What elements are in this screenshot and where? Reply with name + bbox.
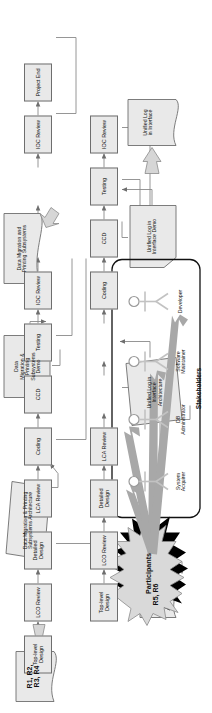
process-label: Top-level Design: [32, 637, 44, 671]
process-label: LCO Review: [101, 535, 107, 565]
doc-shape-uli-demo: [122, 189, 176, 267]
process-label: Coding: [101, 281, 107, 298]
process-label: IOC Review: [35, 120, 41, 149]
process-mid-4[interactable]: LCA Review: [90, 427, 118, 465]
process-mid-7[interactable]: Testing: [90, 167, 118, 205]
process-mid-8[interactable]: IOC Review: [90, 115, 118, 153]
process-label: Detailed Design: [32, 533, 44, 567]
process-top-1[interactable]: Top-level Design: [24, 635, 52, 673]
process-top-8[interactable]: IOC Review: [24, 271, 52, 309]
diagram-rotation-wrapper: Top-level Design LCO Review Detailed Des…: [0, 0, 212, 713]
process-top-5[interactable]: Coding: [24, 427, 52, 465]
process-label: Detailed Design: [98, 481, 110, 515]
doc-shape-uli: [128, 99, 178, 145]
process-top-4[interactable]: LCA Review: [24, 479, 52, 517]
process-top-6[interactable]: CCD: [24, 375, 52, 413]
process-project-end[interactable]: Project End: [24, 63, 52, 101]
process-mid-1[interactable]: Top-level Design: [90, 583, 118, 621]
process-label: Top-level Design: [98, 585, 110, 619]
process-mid-5[interactable]: Coding: [90, 271, 118, 309]
process-label: LCA Review: [101, 431, 107, 460]
process-label: Testing: [35, 333, 41, 350]
process-label: LCO Review: [35, 587, 41, 617]
process-label: Project End: [35, 68, 41, 96]
process-label: LCA Review: [35, 483, 41, 512]
process-top-3[interactable]: Detailed Design: [24, 531, 52, 569]
process-label: Testing: [101, 177, 107, 194]
process-top-7[interactable]: Testing: [24, 323, 52, 361]
process-mid-6[interactable]: CCD: [90, 219, 118, 257]
process-flow-diagram: Top-level Design LCO Review Detailed Des…: [0, 0, 212, 713]
process-label: CCD: [101, 232, 107, 244]
block-arrow-uli: [143, 147, 161, 173]
block-arrow-dmps: [40, 207, 59, 227]
process-label: Coding: [35, 437, 41, 454]
process-top-2[interactable]: LCO Review: [24, 583, 52, 621]
process-label: IOC Review: [101, 120, 107, 149]
process-mid-3[interactable]: Detailed Design: [90, 479, 118, 517]
process-label: CCD: [35, 388, 41, 400]
process-mid-2[interactable]: LCO Review: [90, 531, 118, 569]
process-label: IOC Review: [35, 276, 41, 305]
process-top-9[interactable]: IOC Review: [24, 115, 52, 153]
